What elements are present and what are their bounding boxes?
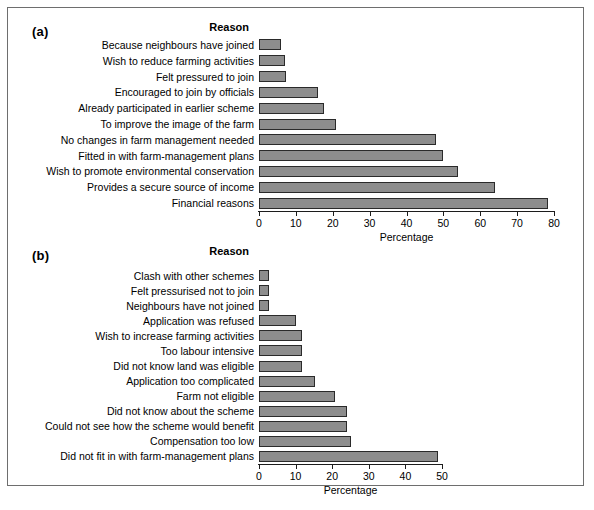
bar: [259, 361, 302, 372]
bar-row: Because neighbours have joined: [259, 39, 554, 50]
bar: [259, 421, 347, 432]
bar-category-label: Wish to increase farming activities: [95, 331, 254, 342]
bar-row: Application too complicated: [259, 376, 442, 387]
x-axis-tick: [370, 212, 371, 216]
x-axis-tick: [259, 212, 260, 216]
bar: [259, 198, 548, 209]
x-axis-tick-label: 30: [363, 470, 375, 482]
x-axis-tick: [296, 465, 297, 469]
bar: [259, 182, 495, 193]
figure-frame: (a) Reason Because neighbours have joine…: [7, 7, 584, 486]
bar-row: Application was refused: [259, 315, 442, 326]
bar-category-label: Too labour intensive: [161, 346, 254, 357]
bar: [259, 39, 281, 50]
bar-category-label: Farm not eligible: [176, 391, 254, 402]
bar-category-label: Neighbours have not joined: [126, 300, 254, 311]
x-axis-title: Percentage: [324, 484, 378, 496]
bar-row: Neighbours have not joined: [259, 300, 442, 311]
bar: [259, 150, 443, 161]
bar-row: Could not see how the scheme would benef…: [259, 421, 442, 432]
bar-category-label: Financial reasons: [172, 198, 254, 209]
bar: [259, 71, 286, 82]
bar-category-label: Wish to promote environmental conservati…: [46, 166, 254, 177]
panel-a-label: (a): [32, 24, 49, 39]
x-axis-tick-label: 40: [401, 217, 413, 229]
x-axis-tick-label: 50: [438, 217, 450, 229]
bar: [259, 166, 458, 177]
x-axis-tick-label: 40: [400, 470, 412, 482]
bar-category-label: Already participated in earlier scheme: [78, 103, 254, 114]
bar-row: Fitted in with farm-management plans: [259, 150, 554, 161]
bar-row: Wish to promote environmental conservati…: [259, 166, 554, 177]
bar-category-label: Clash with other schemes: [134, 270, 254, 281]
bar-category-label: Felt pressured to join: [156, 71, 254, 82]
x-axis-tick: [480, 212, 481, 216]
panel-b-reason-heading: Reason: [209, 245, 249, 257]
x-axis-tick: [407, 212, 408, 216]
bar-row: Felt pressured to join: [259, 71, 554, 82]
bar-category-label: No changes in farm management needed: [61, 135, 254, 146]
panel-a-reason-heading: Reason: [209, 21, 249, 33]
bar-row: Compensation too low: [259, 436, 442, 447]
bar-category-label: Encouraged to join by officials: [115, 87, 254, 98]
x-axis-tick: [405, 465, 406, 469]
bar-category-label: Because neighbours have joined: [102, 40, 254, 51]
x-axis-tick: [442, 465, 443, 469]
bar-row: Did not know about the scheme: [259, 406, 442, 417]
bar-category-label: Did not know land was eligible: [113, 361, 254, 372]
bar: [259, 330, 302, 341]
bar: [259, 436, 351, 447]
x-axis-tick-label: 0: [256, 217, 262, 229]
bar: [259, 285, 269, 296]
bar-row: To improve the image of the farm: [259, 119, 554, 130]
x-axis-tick: [333, 212, 334, 216]
x-axis-tick: [332, 465, 333, 469]
bar: [259, 87, 318, 98]
bar-row: Clash with other schemes: [259, 270, 442, 281]
x-axis-tick-label: 0: [256, 470, 262, 482]
bar-row: Felt pressurised not to join: [259, 285, 442, 296]
x-axis-tick-label: 20: [327, 217, 339, 229]
x-axis-tick-label: 20: [326, 470, 338, 482]
x-axis-tick-label: 10: [290, 470, 302, 482]
bar-row: Wish to reduce farming activities: [259, 55, 554, 66]
bar-row: Already participated in earlier scheme: [259, 103, 554, 114]
bar-category-label: Did not know about the scheme: [107, 406, 254, 417]
bar: [259, 134, 436, 145]
bar-category-label: Fitted in with farm-management plans: [78, 150, 254, 161]
x-axis-tick-label: 30: [364, 217, 376, 229]
x-axis-line: [258, 464, 443, 465]
bar-row: Farm not eligible: [259, 391, 442, 402]
bar: [259, 300, 269, 311]
x-axis-tick: [259, 465, 260, 469]
bar: [259, 270, 269, 281]
x-axis-tick: [554, 212, 555, 216]
chart-panel-b: (b) Reason Clash with other schemesFelt …: [8, 236, 583, 486]
bar: [259, 391, 335, 402]
bar-row: Did not know land was eligible: [259, 361, 442, 372]
x-axis-tick: [296, 212, 297, 216]
bar: [259, 55, 285, 66]
x-axis-tick-label: 80: [548, 217, 560, 229]
bar-category-label: To improve the image of the farm: [101, 119, 255, 130]
bar-row: Did not fit in with farm-management plan…: [259, 451, 442, 462]
bar-row: Too labour intensive: [259, 345, 442, 356]
bar: [259, 103, 324, 114]
x-axis-tick-label: 60: [474, 217, 486, 229]
bar-category-label: Application was refused: [143, 316, 254, 327]
bar-row: Wish to increase farming activities: [259, 330, 442, 341]
x-axis-tick-label: 50: [436, 470, 448, 482]
bar: [259, 406, 347, 417]
bar-row: Encouraged to join by officials: [259, 87, 554, 98]
bar-category-label: Did not fit in with farm-management plan…: [60, 451, 254, 462]
chart-panel-a: (a) Reason Because neighbours have joine…: [8, 8, 583, 236]
panel-b-plot-area: Clash with other schemesFelt pressurised…: [259, 268, 442, 464]
bar-category-label: Compensation too low: [150, 436, 254, 447]
bar-row: Provides a secure source of income: [259, 182, 554, 193]
panel-a-plot-area: Because neighbours have joinedWish to re…: [259, 37, 554, 211]
bar-category-label: Application too complicated: [126, 376, 254, 387]
bar: [259, 119, 336, 130]
bar: [259, 315, 296, 326]
bar-category-label: Felt pressurised not to join: [131, 285, 254, 296]
bar: [259, 376, 315, 387]
